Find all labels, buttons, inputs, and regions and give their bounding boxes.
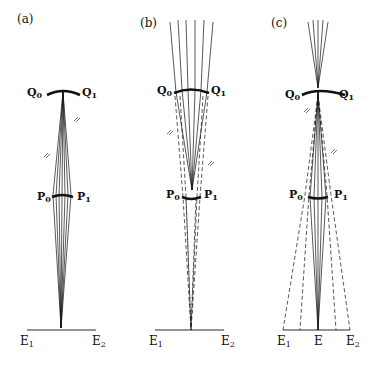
panel-a-e1-label: E1: [20, 334, 34, 349]
panel-c-p1-label: P1: [334, 188, 348, 202]
panel-c-solid-rays: [310, 92, 326, 330]
panel-b: [155, 20, 224, 330]
panel-c-e-label: E: [314, 334, 323, 348]
panel-a-rays: [53, 92, 71, 328]
panel-c-e2-label: E2: [346, 334, 360, 349]
panel-a-p1-label: P1: [77, 190, 91, 204]
panel-c-label: (c): [271, 16, 287, 30]
panel-c-q0-label: Q0: [285, 88, 301, 102]
panel-c-q1-label: Q1: [339, 88, 354, 102]
optics-figure: (a) Q0 Q1 P0 P1 E1 E2 (b) Q0 Q1 P0 P1 E1…: [0, 0, 376, 367]
panel-a-label: (a): [17, 12, 34, 26]
panel-b-label: (b): [140, 16, 157, 30]
panel-b-p1-label: P1: [204, 188, 218, 202]
panel-b-q1-label: Q1: [211, 84, 226, 98]
panel-c-p0-label: P0: [289, 188, 303, 202]
panel-b-lens-p: [182, 197, 201, 199]
panel-b-e1-label: E1: [149, 334, 163, 349]
panel-a-p0-label: P0: [37, 190, 51, 204]
panel-b-e2-label: E2: [221, 334, 235, 349]
panel-c-e1-label: E1: [277, 334, 291, 349]
panel-b-incoming-rays: [170, 20, 213, 190]
panel-a-q1-label: Q1: [82, 86, 97, 100]
panel-c: [283, 20, 350, 330]
panel-b-p0-label: P0: [166, 188, 180, 202]
panel-c-lens-p: [308, 197, 328, 199]
panel-a-lens-p: [52, 195, 73, 197]
panel-a-q0-label: Q0: [27, 86, 43, 100]
panel-b-mirror-q: [174, 90, 209, 94]
panel-b-dashed-rays: [175, 96, 208, 330]
panel-c-incoming-rays: [308, 20, 328, 88]
panel-a: [27, 91, 96, 330]
panel-a-e2-label: E2: [92, 334, 106, 349]
panel-b-q0-label: Q0: [157, 84, 173, 98]
